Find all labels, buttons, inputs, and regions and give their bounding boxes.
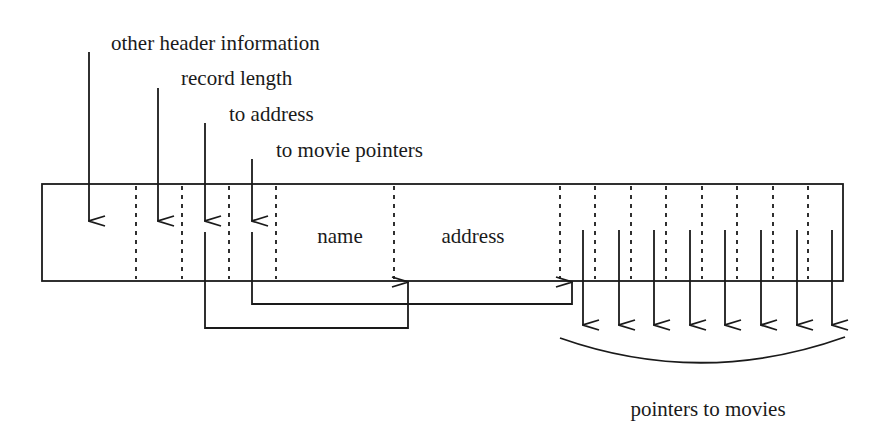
connector-to-movie-pointers — [252, 232, 572, 304]
label-to-address: to address — [229, 102, 314, 126]
record-diagram: other header information record length t… — [0, 0, 883, 447]
grouping-brace — [560, 337, 845, 363]
field-address: address — [442, 224, 505, 248]
connector-to-address — [205, 232, 408, 328]
label-other-header-information: other header information — [111, 31, 320, 55]
label-record-length: record length — [181, 66, 293, 90]
label-pointers-to-movies: pointers to movies — [630, 397, 785, 421]
movie-pointer-arrows — [583, 230, 832, 325]
label-to-movie-pointers: to movie pointers — [276, 138, 423, 162]
field-name: name — [317, 224, 362, 248]
